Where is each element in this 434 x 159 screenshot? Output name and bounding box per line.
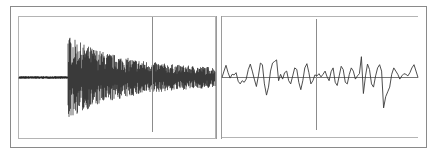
detail-waveform-trace	[222, 57, 418, 108]
overview-panel	[19, 17, 216, 139]
waveform-figure	[0, 0, 434, 159]
panel-divider	[217, 16, 222, 139]
detail-panel	[222, 17, 418, 138]
overview-waveform-trace	[19, 38, 215, 117]
